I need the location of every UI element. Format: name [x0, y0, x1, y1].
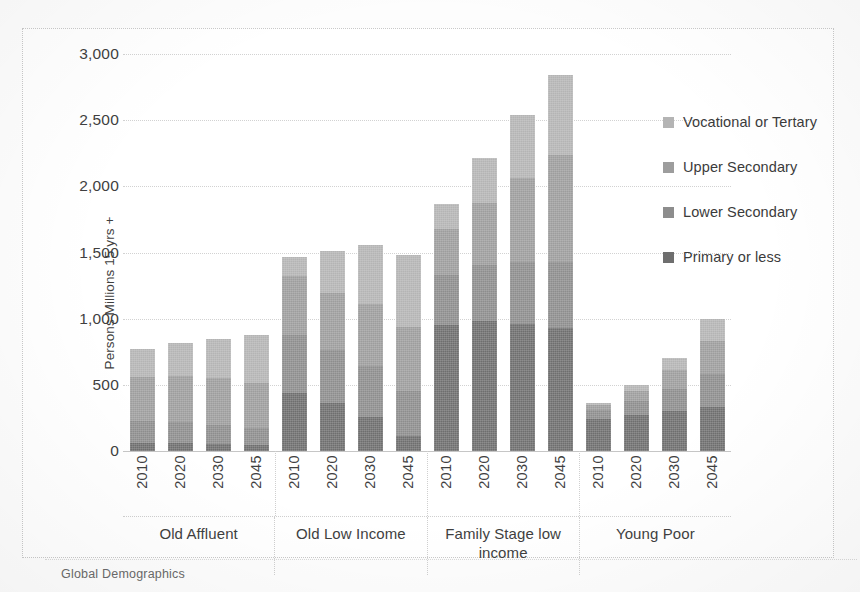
- bar-segment-lower-secondary: [130, 421, 155, 443]
- source-caption: Global Demographics: [61, 567, 185, 581]
- bar-segment-vocational-or-tertary: [282, 257, 307, 276]
- bar-segment-lower-secondary: [168, 422, 193, 443]
- bar-family-stage-low-income-2010: [434, 204, 459, 451]
- bar-segment-upper-secondary: [358, 304, 383, 366]
- legend-item[interactable]: Primary or less: [663, 249, 860, 265]
- x-axis-group-row: Old AffluentOld Low IncomeFamily Stage l…: [123, 517, 731, 575]
- bar-segment-upper-secondary: [168, 376, 193, 422]
- bar-segment-primary-or-less: [282, 393, 307, 451]
- x-tick-year-label: 2020: [476, 455, 492, 489]
- x-tick-year-label: 2045: [704, 455, 720, 489]
- bar-segment-upper-secondary: [320, 293, 345, 350]
- bar-segment-lower-secondary: [396, 391, 421, 436]
- bar-segment-lower-secondary: [548, 262, 573, 328]
- bar-segment-lower-secondary: [320, 350, 345, 403]
- bar-segment-primary-or-less: [662, 411, 687, 451]
- bar-segment-primary-or-less: [472, 321, 497, 451]
- bar-young-poor-2045: [700, 319, 725, 451]
- bar-segment-upper-secondary: [244, 383, 269, 428]
- bar-old-low-income-2030: [358, 245, 383, 451]
- legend-item[interactable]: Upper Secondary: [663, 159, 860, 175]
- x-tick-year-cell: 2030: [199, 451, 237, 516]
- bar-segment-lower-secondary: [434, 275, 459, 325]
- y-tick-label: 2,500: [57, 111, 119, 129]
- bar-young-poor-2010: [586, 403, 611, 451]
- x-tick-year-label: 2045: [400, 455, 416, 489]
- y-tick-label: 3,000: [57, 45, 119, 63]
- legend-swatch-icon: [663, 207, 674, 218]
- bar-segment-vocational-or-tertary: [320, 251, 345, 293]
- bar-family-stage-low-income-2030: [510, 115, 535, 451]
- caption-divider: [45, 559, 857, 560]
- bar-segment-vocational-or-tertary: [472, 158, 497, 203]
- legend-item[interactable]: Lower Secondary: [663, 204, 860, 220]
- x-axis-group-separator: [579, 451, 580, 516]
- x-tick-year-label: 2010: [438, 455, 454, 489]
- bar-segment-upper-secondary: [434, 229, 459, 275]
- x-tick-year-cell: 2010: [123, 451, 161, 516]
- x-tick-year-cell: 2030: [503, 451, 541, 516]
- bar-segment-vocational-or-tertary: [662, 358, 687, 370]
- x-axis-group-label: Young Poor: [616, 525, 695, 544]
- bar-segment-vocational-or-tertary: [510, 115, 535, 179]
- x-axis-group-old-low-income: Old Low Income: [274, 517, 426, 575]
- legend-label: Lower Secondary: [683, 204, 797, 220]
- bar-young-poor-2030: [662, 358, 687, 451]
- bar-segment-vocational-or-tertary: [358, 245, 383, 304]
- bar-old-affluent-2030: [206, 339, 231, 451]
- bar-segment-lower-secondary: [662, 389, 687, 411]
- bar-segment-vocational-or-tertary: [548, 75, 573, 154]
- bar-segment-lower-secondary: [282, 335, 307, 393]
- x-tick-year-label: 2010: [590, 455, 606, 489]
- legend-label: Upper Secondary: [683, 159, 797, 175]
- x-tick-year-cell: 2010: [275, 451, 313, 516]
- bar-segment-upper-secondary: [282, 276, 307, 334]
- x-tick-year-label: 2010: [134, 455, 150, 489]
- y-axis-title: Persons Millions 15 yrs +: [102, 217, 117, 370]
- bar-segment-upper-secondary: [662, 370, 687, 389]
- bar-segment-upper-secondary: [396, 327, 421, 392]
- y-tick-label: 0: [57, 442, 119, 460]
- x-tick-year-cell: 2020: [313, 451, 351, 516]
- bar-segment-lower-secondary: [624, 401, 649, 415]
- bar-old-low-income-2020: [320, 251, 345, 451]
- x-axis-group-label: Old Affluent: [159, 525, 237, 544]
- y-tick-label: 500: [57, 376, 119, 394]
- legend-label: Vocational or Tertary: [683, 114, 817, 130]
- bar-segment-upper-secondary: [510, 178, 535, 261]
- bar-segment-primary-or-less: [586, 419, 611, 451]
- bar-segment-lower-secondary: [358, 366, 383, 418]
- bar-segment-upper-secondary: [472, 203, 497, 265]
- bar-segment-lower-secondary: [206, 425, 231, 444]
- bar-segment-vocational-or-tertary: [168, 343, 193, 375]
- legend-swatch-icon: [663, 117, 674, 128]
- bar-segment-primary-or-less: [548, 328, 573, 451]
- x-tick-year-cell: 2020: [465, 451, 503, 516]
- bar-segment-primary-or-less: [320, 403, 345, 451]
- bar-segment-vocational-or-tertary: [244, 335, 269, 383]
- bar-segment-upper-secondary: [624, 391, 649, 401]
- bar-segment-primary-or-less: [624, 415, 649, 451]
- x-tick-year-label: 2030: [666, 455, 682, 489]
- bar-segment-primary-or-less: [434, 325, 459, 451]
- bar-segment-vocational-or-tertary: [434, 204, 459, 228]
- bar-old-low-income-2045: [396, 255, 421, 451]
- bar-segment-lower-secondary: [586, 410, 611, 419]
- legend-label: Primary or less: [683, 249, 781, 265]
- bar-segment-vocational-or-tertary: [206, 339, 231, 379]
- x-tick-year-label: 2020: [628, 455, 644, 489]
- x-tick-year-label: 2020: [324, 455, 340, 489]
- x-tick-year-cell: 2010: [579, 451, 617, 516]
- bar-segment-primary-or-less: [206, 444, 231, 451]
- y-tick-label: 1,500: [57, 244, 119, 262]
- bar-segment-primary-or-less: [168, 443, 193, 451]
- x-tick-year-label: 2010: [286, 455, 302, 489]
- bar-segment-vocational-or-tertary: [624, 385, 649, 392]
- bar-series-container: [123, 54, 731, 451]
- x-tick-year-cell: 2010: [427, 451, 465, 516]
- x-tick-year-cell: 2045: [693, 451, 731, 516]
- bar-young-poor-2020: [624, 385, 649, 451]
- screenshot-page: Persons Millions 15 yrs + 05001,0001,500…: [0, 0, 860, 592]
- legend-item[interactable]: Vocational or Tertary: [663, 114, 860, 130]
- plot-area: [123, 54, 731, 451]
